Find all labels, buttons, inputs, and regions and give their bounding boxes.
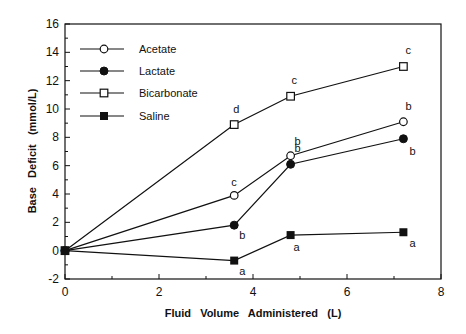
open-circle-marker — [400, 118, 408, 126]
legend-label: Saline — [139, 110, 170, 122]
y-tick-label: 10 — [46, 102, 60, 116]
significance-label: a — [239, 265, 246, 277]
y-tick-label: 16 — [46, 17, 60, 31]
significance-label: b — [405, 100, 411, 112]
y-tick-label: 4 — [52, 187, 59, 201]
x-tick-label: 4 — [250, 285, 257, 299]
significance-label: b — [239, 229, 245, 241]
y-tick-label: 0 — [52, 244, 59, 258]
legend-marker-icon — [100, 89, 108, 97]
open-square-marker — [400, 63, 408, 71]
filled-square-marker — [399, 228, 407, 236]
x-axis-label: Fluid Volume Administered (L) — [165, 307, 342, 319]
line-chart: -20246810121416 02468 Fluid Volume Admin… — [0, 0, 466, 334]
filled-circle-marker — [230, 221, 238, 229]
y-tick-label: 14 — [46, 45, 60, 59]
significance-label: d — [233, 103, 239, 115]
series-line — [65, 232, 403, 260]
significance-label: a — [294, 241, 301, 253]
legend-label: Bicarbonate — [139, 87, 198, 99]
filled-circle-marker — [399, 135, 407, 143]
legend-item-saline: Saline — [80, 110, 170, 122]
significance-label: c — [405, 44, 411, 56]
y-tick-label: 12 — [46, 74, 60, 88]
legend-marker-icon — [100, 45, 108, 53]
plot-area-frame — [65, 24, 441, 279]
legend-marker-icon — [100, 112, 108, 120]
legend-label: Lactate — [139, 65, 175, 77]
open-circle-marker — [230, 192, 238, 200]
y-axis-ticks: -20246810121416 — [46, 17, 70, 286]
significance-label: c — [231, 176, 237, 188]
legend-label: Acetate — [139, 43, 176, 55]
legend-item-lactate: Lactate — [80, 65, 175, 77]
y-tick-label: 8 — [52, 130, 59, 144]
filled-square-marker — [287, 231, 295, 239]
x-axis-ticks: 02468 — [62, 274, 445, 299]
legend-item-bicarbonate: Bicarbonate — [80, 87, 198, 99]
x-tick-label: 6 — [344, 285, 351, 299]
open-square-marker — [287, 92, 295, 100]
y-tick-label: 6 — [52, 159, 59, 173]
filled-square-marker — [230, 257, 238, 265]
legend-marker-icon — [100, 67, 108, 75]
x-tick-label: 0 — [62, 285, 69, 299]
legend: AcetateLactateBicarbonateSaline — [80, 43, 198, 122]
y-tick-label: -2 — [48, 272, 59, 286]
significance-label: b — [409, 145, 415, 157]
significance-label: b — [295, 142, 301, 154]
legend-item-acetate: Acetate — [80, 43, 176, 55]
significance-label: a — [409, 237, 416, 249]
y-axis-label: Base Deficit (mmol/L) — [26, 88, 38, 213]
open-circle-marker — [287, 152, 295, 160]
filled-square-marker — [61, 247, 69, 255]
x-tick-label: 8 — [438, 285, 445, 299]
filled-circle-marker — [287, 160, 295, 168]
x-tick-label: 2 — [156, 285, 163, 299]
significance-label: c — [292, 74, 298, 86]
data-series: cbbbbbdccaaa — [61, 44, 416, 277]
open-square-marker — [230, 121, 238, 129]
y-tick-label: 2 — [52, 215, 59, 229]
